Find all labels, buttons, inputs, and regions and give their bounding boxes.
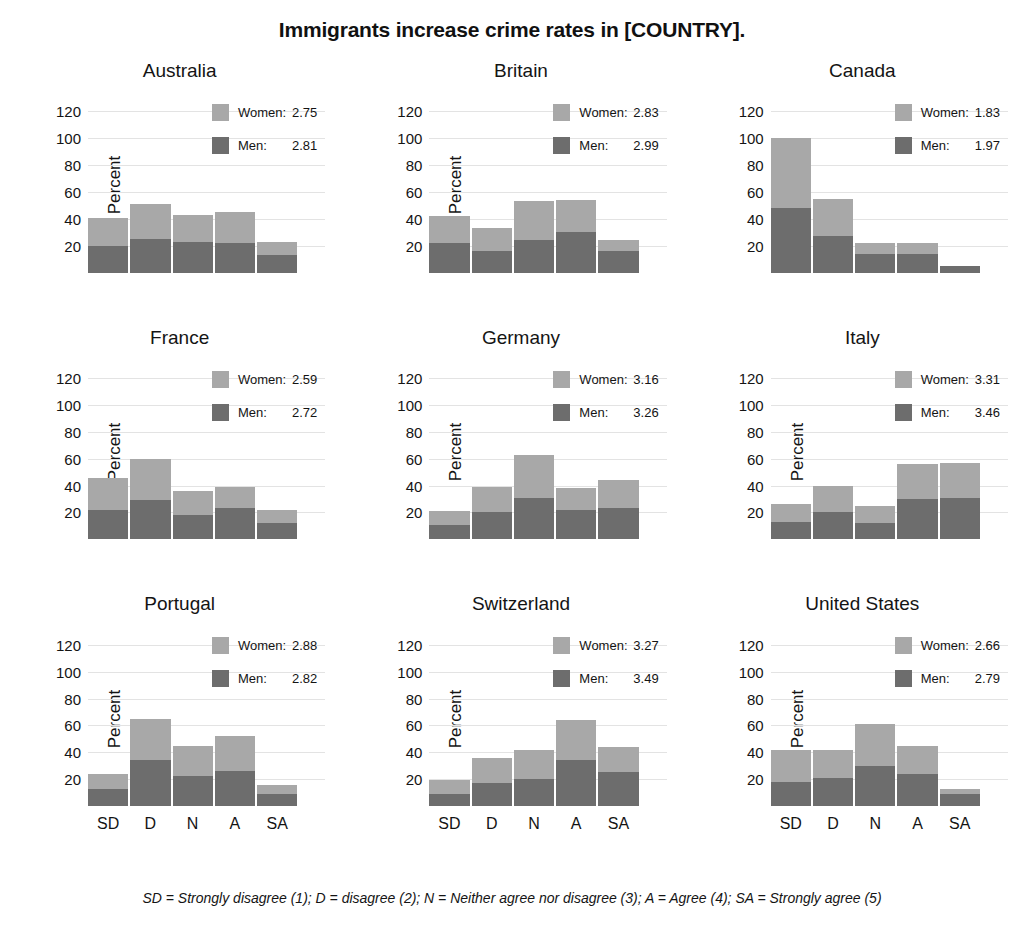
x-axis-tick: A bbox=[230, 815, 241, 833]
stacked-bar bbox=[855, 243, 895, 273]
bar-segment-women bbox=[771, 504, 811, 521]
legend-label: Men: bbox=[238, 671, 292, 686]
y-axis-tick: 120 bbox=[397, 636, 422, 653]
stacked-bar bbox=[472, 758, 512, 806]
legend-swatch-men-icon bbox=[212, 670, 229, 687]
x-axis-tick: N bbox=[187, 815, 199, 833]
bar-segment-women bbox=[429, 216, 469, 243]
bar-segment-women bbox=[88, 478, 128, 510]
panel-title: Australia bbox=[0, 60, 341, 82]
x-axis-tick: N bbox=[870, 815, 882, 833]
bar-segment-women bbox=[556, 200, 596, 232]
y-axis-tick: 60 bbox=[747, 717, 764, 734]
legend-item-men: Men:2.81 bbox=[212, 137, 317, 154]
stacked-bar bbox=[813, 486, 853, 540]
plot-area: Percent20406080100120Women:2.59Men:2.72 bbox=[88, 365, 319, 540]
y-axis-tick: 100 bbox=[397, 130, 422, 147]
bar-segment-women bbox=[556, 488, 596, 509]
bar-segment-women bbox=[257, 785, 297, 794]
plot-area: Percent20406080100120Women:2.83Men:2.99 bbox=[429, 98, 660, 273]
legend-item-men: Men:3.26 bbox=[553, 404, 658, 421]
bar-segment-men bbox=[514, 240, 554, 272]
y-axis-tick: 60 bbox=[64, 450, 81, 467]
y-axis-tick: 20 bbox=[64, 504, 81, 521]
stacked-bar bbox=[514, 455, 554, 540]
y-axis-tick: 120 bbox=[397, 370, 422, 387]
legend-swatch-women-icon bbox=[553, 371, 570, 388]
bar-segment-women bbox=[813, 486, 853, 513]
stacked-bar bbox=[940, 463, 980, 540]
bar-slot bbox=[514, 98, 554, 273]
bar-segment-women bbox=[215, 736, 255, 771]
bar-segment-men bbox=[556, 760, 596, 806]
bar-segment-women bbox=[897, 746, 937, 774]
legend-value: 1.97 bbox=[975, 138, 1000, 153]
bar-slot bbox=[429, 98, 469, 273]
stacked-bar bbox=[940, 266, 980, 273]
legend-value: 2.82 bbox=[292, 671, 317, 686]
bar-segment-men bbox=[897, 499, 937, 539]
y-axis-tick: 80 bbox=[64, 690, 81, 707]
bar-slot bbox=[130, 365, 170, 540]
y-axis-tick: 60 bbox=[406, 184, 423, 201]
plot-area: Percent20406080100120Women:2.75Men:2.81 bbox=[88, 98, 319, 273]
bar-slot bbox=[173, 365, 213, 540]
bar-slot bbox=[855, 365, 895, 540]
bar-slot: SD bbox=[88, 631, 128, 806]
legend-item-women: Women:3.16 bbox=[553, 371, 658, 388]
bar-segment-men bbox=[257, 523, 297, 539]
y-axis-tick: 80 bbox=[64, 423, 81, 440]
stacked-bar bbox=[940, 789, 980, 806]
bar-segment-men bbox=[514, 498, 554, 540]
bar-segment-men bbox=[771, 208, 811, 272]
legend-label: Men: bbox=[921, 138, 975, 153]
legend-swatch-women-icon bbox=[895, 371, 912, 388]
bar-slot: N bbox=[855, 631, 895, 806]
bar-slot bbox=[88, 98, 128, 273]
bar-segment-men bbox=[88, 510, 128, 540]
panel-title: United States bbox=[683, 593, 1024, 615]
bar-segment-men bbox=[940, 794, 980, 806]
bar-segment-men bbox=[897, 774, 937, 806]
bar-segment-women bbox=[556, 720, 596, 760]
stacked-bar bbox=[897, 243, 937, 273]
stacked-bar bbox=[257, 242, 297, 273]
legend-label: Men: bbox=[921, 671, 975, 686]
x-axis-tick: SA bbox=[608, 815, 629, 833]
stacked-bar bbox=[556, 720, 596, 806]
bar-segment-women bbox=[855, 506, 895, 523]
bar-segment-men bbox=[173, 776, 213, 806]
y-axis-tick: 60 bbox=[64, 717, 81, 734]
legend-item-women: Women:3.31 bbox=[895, 371, 1000, 388]
bar-segment-men bbox=[130, 239, 170, 273]
y-axis-tick: 60 bbox=[747, 450, 764, 467]
x-axis-tick: N bbox=[528, 815, 540, 833]
y-axis-tick: 40 bbox=[406, 477, 423, 494]
stacked-bar bbox=[257, 785, 297, 806]
panel-france: FrancePercent20406080100120Women:2.59Men… bbox=[0, 325, 341, 592]
legend-label: Women: bbox=[579, 105, 633, 120]
legend-label: Women: bbox=[579, 372, 633, 387]
bar-slot bbox=[771, 98, 811, 273]
legend-swatch-women-icon bbox=[212, 371, 229, 388]
legend-swatch-men-icon bbox=[895, 404, 912, 421]
legend-item-women: Women:2.88 bbox=[212, 637, 317, 654]
legend: Women:2.59Men:2.72 bbox=[212, 371, 317, 437]
bar-segment-men bbox=[855, 523, 895, 539]
stacked-bar bbox=[771, 138, 811, 272]
y-axis-tick: 80 bbox=[64, 157, 81, 174]
plot-area: Percent20406080100120SDDNASAWomen:2.66Me… bbox=[771, 631, 1002, 806]
legend-item-women: Women:1.83 bbox=[895, 104, 1000, 121]
stacked-bar bbox=[771, 504, 811, 539]
legend-item-men: Men:3.46 bbox=[895, 404, 1000, 421]
y-axis-tick: 40 bbox=[747, 477, 764, 494]
bar-slot: SD bbox=[771, 631, 811, 806]
bar-segment-men bbox=[897, 254, 937, 273]
legend-value: 1.83 bbox=[975, 105, 1000, 120]
stacked-bar bbox=[130, 459, 170, 540]
bar-segment-men bbox=[813, 778, 853, 806]
legend: Women:1.83Men:1.97 bbox=[895, 104, 1000, 170]
stacked-bar bbox=[173, 215, 213, 273]
stacked-bar bbox=[556, 200, 596, 273]
bar-slot: D bbox=[813, 631, 853, 806]
